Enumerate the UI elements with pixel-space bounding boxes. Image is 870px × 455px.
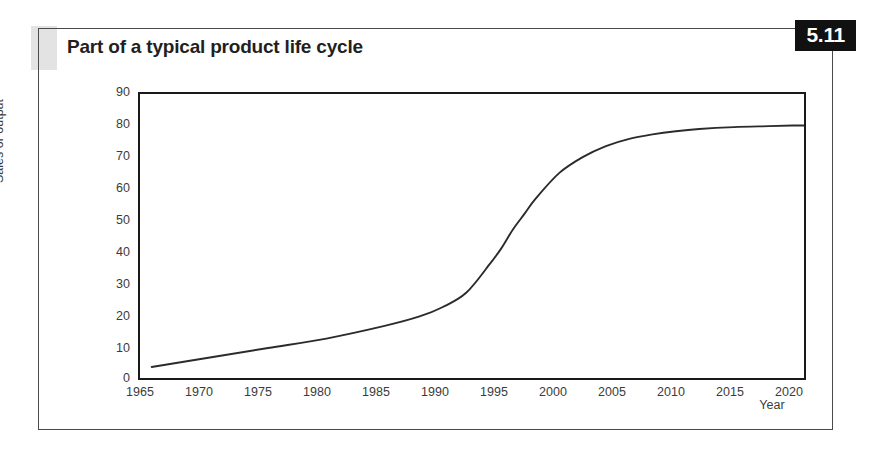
y-tick-label: 0 — [100, 372, 130, 385]
x-tick-label: 2000 — [528, 386, 578, 399]
sales-output-curve — [152, 126, 804, 367]
x-tick-label: 2005 — [587, 386, 637, 399]
x-tick-label: 2010 — [646, 386, 696, 399]
x-tick-label: 1970 — [174, 386, 224, 399]
x-axis-title: Year — [742, 398, 802, 412]
figure-container: Part of a typical product life cycle 5.1… — [0, 0, 870, 455]
y-tick-label: 80 — [100, 118, 130, 131]
y-tick-label: 90 — [100, 86, 130, 99]
x-tick-label: 1980 — [292, 386, 342, 399]
y-tick-label: 50 — [100, 214, 130, 227]
x-tick-label: 2020 — [764, 386, 814, 399]
x-tick-label: 1965 — [115, 386, 165, 399]
y-tick-label: 70 — [100, 150, 130, 163]
x-tick-label: 2015 — [705, 386, 755, 399]
y-tick-label: 40 — [100, 246, 130, 259]
y-tick-label: 10 — [100, 342, 130, 355]
figure-title: Part of a typical product life cycle — [67, 36, 363, 58]
y-tick-label: 60 — [100, 182, 130, 195]
y-tick-label: 30 — [100, 278, 130, 291]
figure-number-badge: 5.11 — [795, 20, 856, 51]
x-tick-label: 1985 — [351, 386, 401, 399]
y-tick-label: 20 — [100, 310, 130, 323]
x-tick-label: 1995 — [469, 386, 519, 399]
x-tick-label: 1990 — [410, 386, 460, 399]
plot-area — [138, 92, 806, 380]
y-axis-title: Sales or output — [0, 76, 6, 206]
x-tick-label: 1975 — [233, 386, 283, 399]
line-chart-svg — [140, 94, 804, 378]
